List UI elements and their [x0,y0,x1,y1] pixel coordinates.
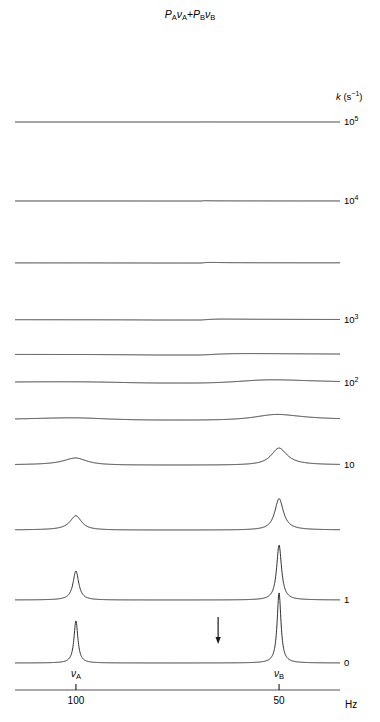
coalescence-arrow [216,617,221,644]
spectrum-trace [15,545,340,600]
spectrum-trace [15,319,340,320]
rate-label: 105 [344,117,358,127]
rate-label: 102 [344,378,358,388]
spectrum-trace [15,593,340,663]
rate-label: 1 [344,595,349,605]
rate-label: 0 [344,658,349,668]
peak-frequency-label: νA [56,669,96,679]
peak-frequency-label: νB [259,669,299,679]
spectrum-trace [15,414,340,420]
rate-label: 103 [344,315,358,325]
spectrum-trace [15,262,340,263]
spectrum-trace [15,448,340,465]
nmr-exchange-stack-plot: PAνA+PBνB k (s−1) 1051041031021010νAνB10… [0,0,380,722]
x-axis-unit-label: Hz [345,700,357,710]
spectrum-trace [15,380,340,383]
spectrum-trace [15,354,340,355]
rate-label: 104 [344,196,358,206]
axis-tick-label: 100 [51,696,101,706]
rate-label: 10 [344,460,355,470]
axis-tick-label: 50 [254,696,304,706]
spectra-canvas [0,0,380,722]
spectrum-trace [15,499,340,530]
